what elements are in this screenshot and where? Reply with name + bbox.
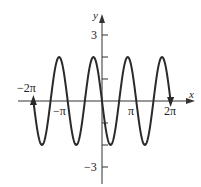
y-axis-arrow-icon — [99, 14, 105, 23]
x-tick-label-negpi: −π — [53, 104, 66, 118]
y-axis-label: y — [92, 9, 98, 21]
x-tick-label-pi: π — [128, 104, 134, 118]
x-axis-label: x — [188, 88, 194, 100]
function-graph: y x 3 −3 −2π −π π 2π — [0, 0, 201, 187]
x-tick-label-neg2pi: −2π — [17, 81, 36, 95]
y-tick-label-neg3: −3 — [84, 160, 97, 174]
y-tick-label-3: 3 — [91, 28, 97, 42]
x-tick-label-2pi: 2π — [164, 104, 176, 118]
curve-start-arrow-icon — [30, 95, 37, 105]
